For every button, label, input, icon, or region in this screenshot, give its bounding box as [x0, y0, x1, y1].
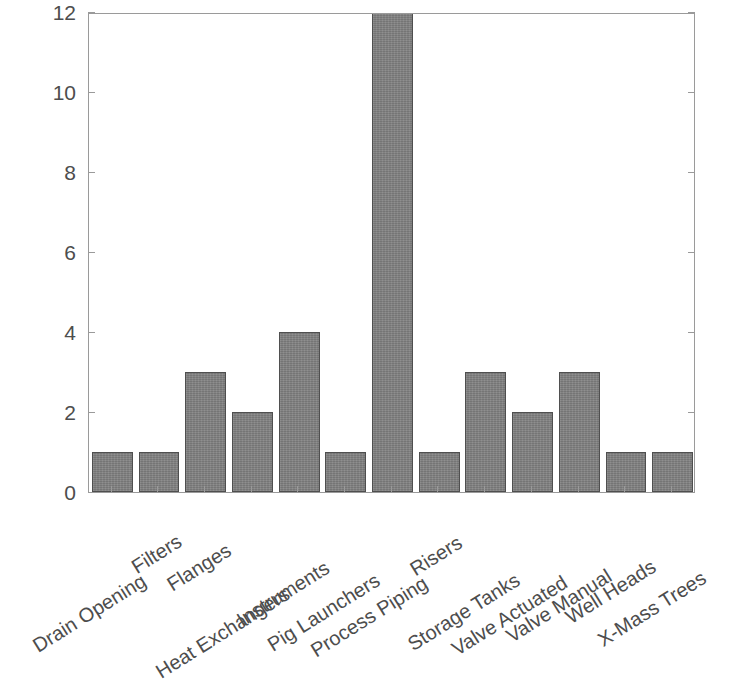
x-tick-mark — [204, 486, 205, 493]
bar-process-piping — [372, 13, 413, 492]
y-tick-mark-right — [688, 12, 695, 13]
x-tick-mark — [391, 486, 392, 493]
x-tick-label: Risers — [407, 532, 466, 579]
y-tick-mark — [88, 92, 95, 93]
y-tick-label: 0 — [64, 482, 76, 503]
y-tick-mark — [88, 492, 95, 493]
x-tick-mark — [671, 486, 672, 493]
x-tick-mark — [344, 486, 345, 493]
x-tick-mark — [297, 486, 298, 493]
x-tick-label: Drain Opening — [30, 570, 150, 655]
x-tick-mark — [578, 486, 579, 493]
bar-x-mass-trees — [652, 452, 693, 492]
bar-pig-launchers — [325, 452, 366, 492]
y-tick-label: 8 — [64, 162, 76, 183]
y-tick-mark — [88, 412, 95, 413]
x-tick-mark — [157, 486, 158, 493]
y-tick-mark — [88, 252, 95, 253]
bar-instruments — [279, 332, 320, 492]
x-tick-label-text: Risers — [407, 532, 466, 579]
plot-area — [88, 13, 695, 493]
bar-well-heads — [606, 452, 647, 492]
y-tick-mark — [88, 172, 95, 173]
y-tick-mark-right — [688, 92, 695, 93]
y-tick-label: 12 — [53, 2, 76, 23]
y-tick-label: 2 — [64, 402, 76, 423]
y-tick-mark — [88, 12, 95, 13]
y-tick-mark-right — [688, 412, 695, 413]
bar-filters — [139, 452, 180, 492]
bar-valve-actuated — [512, 412, 553, 492]
x-tick-label-text: Drain Opening — [30, 570, 150, 655]
x-tick-mark — [111, 486, 112, 493]
bar-valve-manual — [559, 372, 600, 492]
bar-drain-opening — [92, 452, 133, 492]
x-tick-mark — [437, 486, 438, 493]
y-tick-label: 10 — [53, 82, 76, 103]
bar-flanges — [185, 372, 226, 492]
bar-storage-tanks — [465, 372, 506, 492]
y-tick-label: 6 — [64, 242, 76, 263]
y-tick-mark-right — [688, 172, 695, 173]
y-tick-mark — [88, 332, 95, 333]
bar-heat-exchangers — [232, 412, 273, 492]
y-tick-mark-right — [688, 252, 695, 253]
x-tick-mark — [484, 486, 485, 493]
y-tick-label: 4 — [64, 322, 76, 343]
y-tick-mark-right — [688, 492, 695, 493]
x-tick-mark — [251, 486, 252, 493]
x-tick-mark — [531, 486, 532, 493]
bar-risers — [419, 452, 460, 492]
y-tick-mark-right — [688, 332, 695, 333]
x-tick-mark — [624, 486, 625, 493]
